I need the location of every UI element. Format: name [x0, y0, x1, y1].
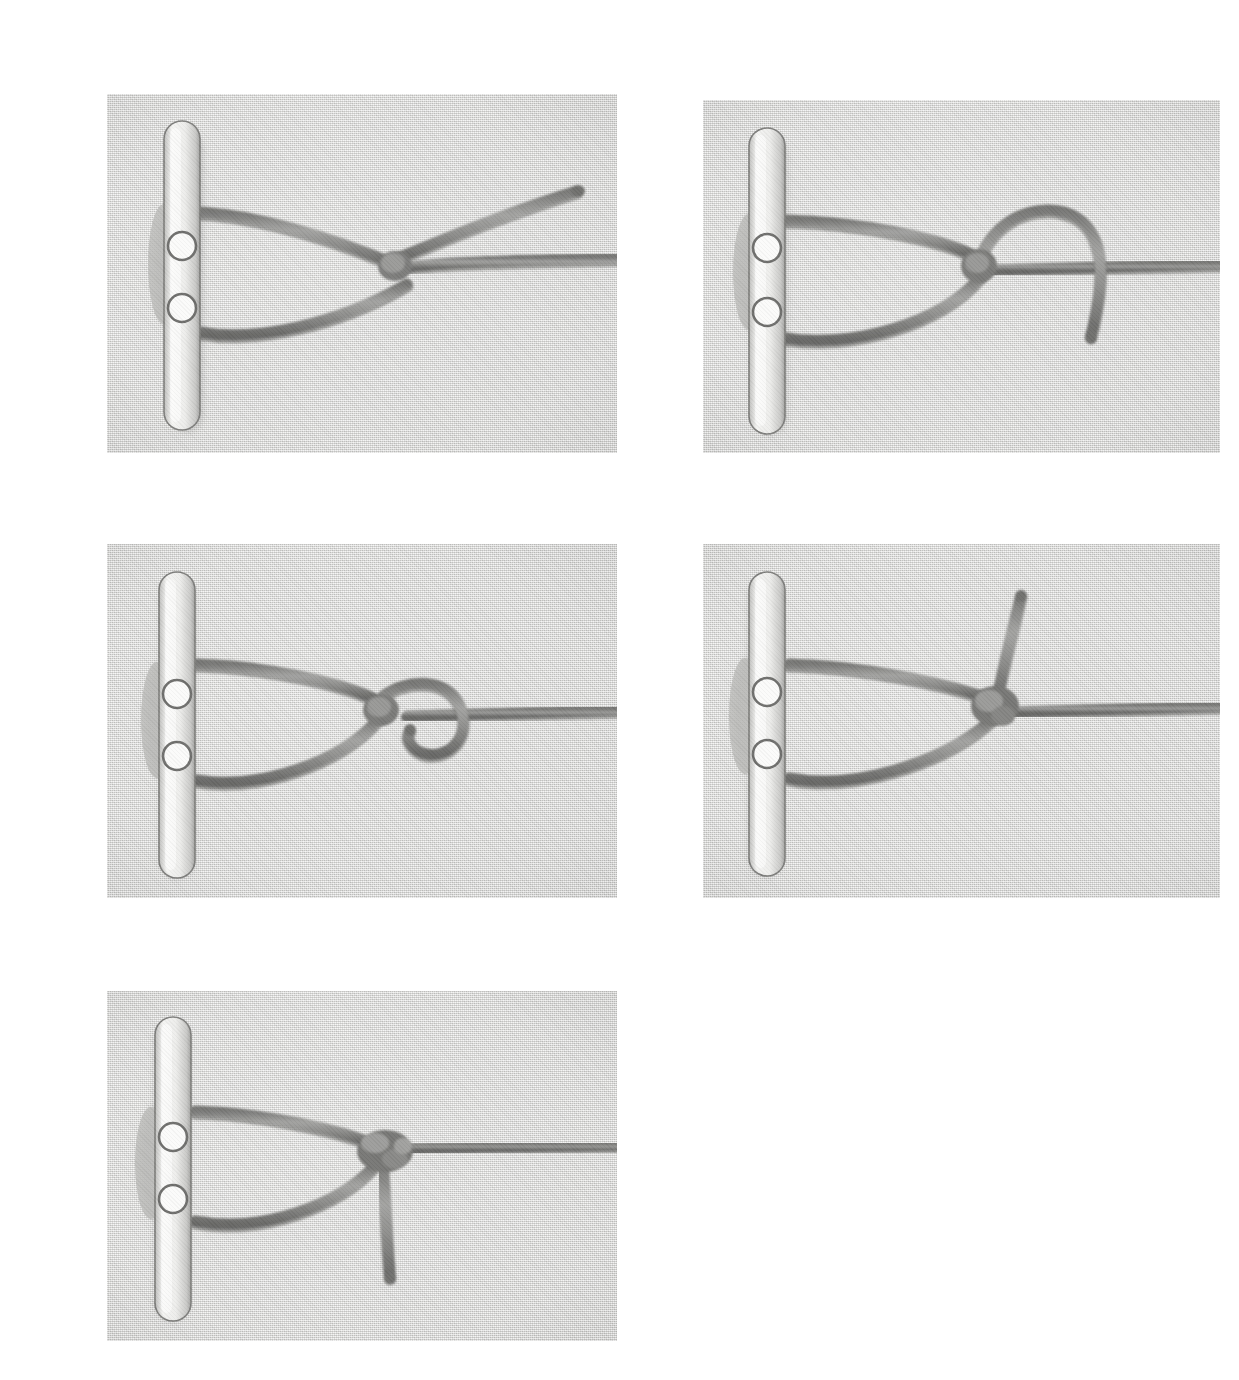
- knot-illustration-step-2: [703, 100, 1220, 453]
- rope-working-end: [393, 185, 585, 262]
- rope-upper-leg: [199, 212, 395, 266]
- rope-standing-part: [399, 258, 617, 270]
- cleat-mounting-hole-upper: [753, 678, 781, 706]
- rope-standing-part: [407, 710, 617, 718]
- knot-illustration-step-3: [107, 544, 617, 898]
- knot-illustration-step-1: [107, 94, 617, 453]
- cleat-mounting-hole-lower: [753, 740, 781, 768]
- rope-standing-part: [1013, 706, 1220, 714]
- rope-crossing-point: [378, 251, 412, 281]
- rope-lower-leg: [195, 1165, 375, 1226]
- rope-crossing-point: [363, 694, 399, 726]
- rope-upper-leg: [785, 220, 971, 256]
- rope-lower-leg: [197, 718, 379, 784]
- cleat-mounting-hole-upper: [159, 1123, 187, 1151]
- knot-illustration-step-5: [107, 991, 617, 1341]
- rope-upper-leg: [197, 664, 373, 700]
- cleat-mounting-hole-lower: [163, 742, 191, 770]
- horn-cleat: [729, 572, 785, 876]
- knot-illustration-step-4: [703, 544, 1220, 898]
- rope-working-end: [997, 590, 1027, 702]
- photo-panel-step-5: Step 5: [107, 991, 617, 1341]
- photo-panel-step-2: Step 2: [703, 100, 1220, 453]
- rope-upper-leg: [195, 1111, 371, 1145]
- photo-panel-step-4: Step 4: [703, 544, 1220, 898]
- horn-cleat: [148, 121, 200, 430]
- horn-cleat: [141, 572, 195, 878]
- photo-panel-step-3: Step 3: [107, 544, 617, 898]
- rope-upper-leg: [789, 664, 985, 699]
- rope-standing-part: [407, 1145, 617, 1151]
- photo-panel-step-1: Step 1: [107, 94, 617, 453]
- rope-crossing-point: [961, 249, 997, 283]
- rope-knot: [357, 1130, 413, 1172]
- horn-cleat: [733, 128, 785, 434]
- rope-lower-leg: [789, 720, 991, 783]
- rope-tail-end: [383, 1165, 396, 1284]
- rope-lower-leg: [199, 284, 407, 337]
- cleat-mounting-hole-lower: [159, 1185, 187, 1213]
- cleat-mounting-hole-upper: [163, 680, 191, 708]
- rope-knot: [971, 686, 1019, 726]
- cleat-mounting-hole-upper: [168, 232, 196, 260]
- rope-lower-leg: [785, 276, 981, 342]
- cleat-mounting-hole-lower: [168, 294, 196, 322]
- horn-cleat: [135, 1017, 191, 1321]
- knot-sequence-grid: Step 1: [0, 0, 1239, 1380]
- cleat-mounting-hole-lower: [753, 298, 781, 326]
- cleat-mounting-hole-upper: [753, 234, 781, 262]
